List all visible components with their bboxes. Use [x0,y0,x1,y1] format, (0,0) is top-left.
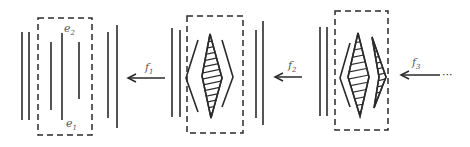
dashed-box-1 [38,18,92,135]
small-hatched-shape [368,37,390,108]
label-e1: e1 [66,117,77,132]
right-chevron [222,40,233,107]
label-f3: f3 [411,56,421,71]
panel-2 [172,16,263,133]
label-f2: f2 [287,59,297,74]
continuation-dots: ··· [442,68,453,81]
label-f1: f1 [144,61,154,76]
diagram-canvas: e2 e1 f1 [0,0,470,147]
arrow-f2: f2 [275,59,302,81]
arrow-f1: f1 [128,61,165,82]
label-e2: e2 [64,22,76,37]
panel-3 [320,11,390,130]
arrow-f3: ··· f3 [401,56,453,81]
panel-1: e2 e1 [22,18,117,135]
left-chevron [186,40,198,112]
